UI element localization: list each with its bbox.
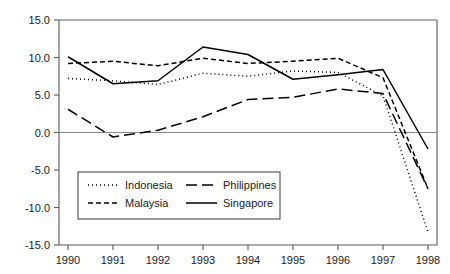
x-tick-label: 1993 <box>191 254 215 266</box>
x-tick-label: 1990 <box>56 254 80 266</box>
x-tick-label: 1992 <box>146 254 170 266</box>
y-tick-label: -10.0 <box>25 202 50 214</box>
legend-label-indonesia: Indonesia <box>125 179 174 191</box>
legend-label-malaysia: Malaysia <box>125 197 169 209</box>
x-tick-label: 1991 <box>101 254 125 266</box>
y-tick-label: -15.0 <box>25 239 50 251</box>
y-axis: 15.010.05.00.0-5.0-10.0-15.0 <box>25 14 59 251</box>
x-axis: 199019911992199319941995199619971998 <box>56 20 440 266</box>
chart-canvas: 15.010.05.00.0-5.0-10.0-15.0 19901991199… <box>0 0 450 274</box>
chart-legend: IndonesiaPhilippinesMalaysiaSingapore <box>78 172 280 219</box>
x-tick-label: 1997 <box>371 254 395 266</box>
y-tick-label: 15.0 <box>29 14 50 26</box>
series-line-singapore <box>68 47 428 149</box>
y-tick-label: 0.0 <box>35 127 50 139</box>
y-tick-label: 10.0 <box>29 52 50 64</box>
series-line-malaysia <box>68 58 428 189</box>
legend-label-singapore: Singapore <box>223 197 273 209</box>
y-tick-label: -5.0 <box>31 164 50 176</box>
x-tick-label: 1996 <box>326 254 350 266</box>
x-tick-label: 1994 <box>236 254 260 266</box>
line-chart: 15.010.05.00.0-5.0-10.0-15.0 19901991199… <box>0 0 450 274</box>
x-tick-label: 1995 <box>281 254 305 266</box>
legend-label-philippines: Philippines <box>223 179 277 191</box>
y-tick-label: 5.0 <box>35 89 50 101</box>
x-tick-label: 1998 <box>416 254 440 266</box>
